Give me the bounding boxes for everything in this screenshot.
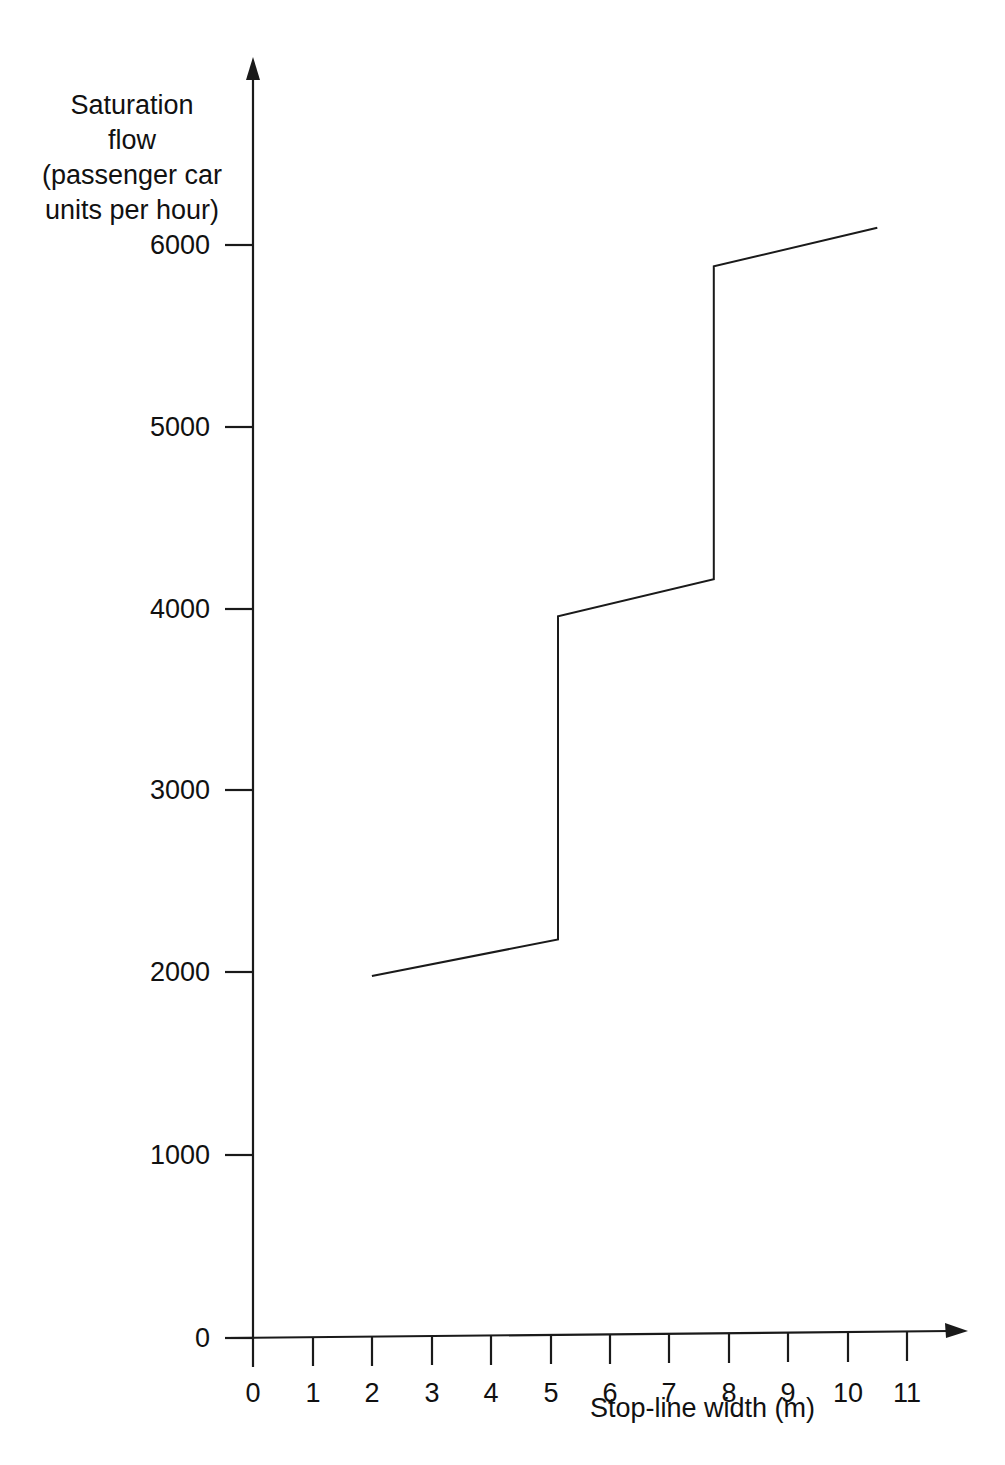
x-tick-label-6: 6 [602, 1380, 617, 1407]
y-tick-label-5000: 5000 [40, 414, 210, 441]
y-axis-title-line-2: flow [108, 125, 156, 155]
x-axis-line [228, 1331, 950, 1338]
y-tick-label-4000: 4000 [40, 596, 210, 623]
y-axis-title-line-4: units per hour) [45, 195, 219, 225]
y-axis-title: Saturationflow(passenger carunits per ho… [18, 88, 246, 228]
y-tick-label-0: 0 [40, 1325, 210, 1352]
y-axis-title-line-3: (passenger car [42, 160, 222, 190]
x-tick-label-7: 7 [661, 1380, 676, 1407]
x-tick-label-11: 11 [893, 1380, 921, 1407]
x-tick-label-5: 5 [543, 1380, 558, 1407]
x-tick-label-8: 8 [721, 1380, 736, 1407]
y-tick-label-1000: 1000 [40, 1142, 210, 1169]
y-tick-label-3000: 3000 [40, 777, 210, 804]
x-tick-label-2: 2 [364, 1380, 379, 1407]
x-tick-label-1: 1 [305, 1380, 320, 1407]
y-tick-label-2000: 2000 [40, 959, 210, 986]
x-tick-label-3: 3 [424, 1380, 439, 1407]
x-tick-label-9: 9 [780, 1380, 795, 1407]
x-tick-label-10: 10 [833, 1380, 863, 1407]
y-axis-arrow-icon [246, 57, 260, 80]
x-axis-arrow-icon [945, 1323, 968, 1338]
y-tick-label-6000: 6000 [40, 232, 210, 259]
data-series-line [372, 228, 877, 976]
y-axis-title-line-1: Saturation [70, 90, 193, 120]
x-tick-label-0: 0 [245, 1380, 260, 1407]
x-tick-label-4: 4 [483, 1380, 498, 1407]
chart-figure: Saturationflow(passenger carunits per ho… [0, 0, 1005, 1465]
